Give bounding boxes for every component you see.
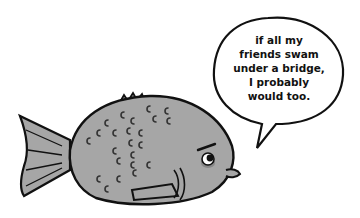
- bubble-line: if all my: [224, 33, 334, 47]
- bubble-line: would too.: [224, 89, 334, 103]
- bubble-line: friends swam: [224, 47, 334, 61]
- tail-fin: [20, 116, 70, 196]
- speech-bubble-text: if all my friends swam under a bridge, I…: [224, 33, 334, 103]
- bubble-line: under a bridge,: [224, 61, 334, 75]
- comic-illustration: if all my friends swam under a bridge, I…: [0, 0, 360, 218]
- bubble-line: I probably: [224, 75, 334, 89]
- frowning-lips: [226, 169, 240, 177]
